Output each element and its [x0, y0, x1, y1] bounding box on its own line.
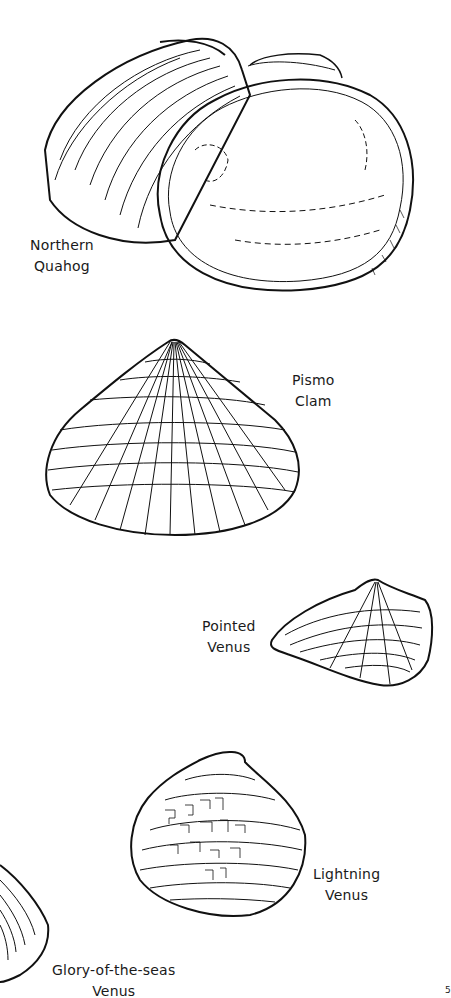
- label-line: Venus: [202, 637, 256, 658]
- glory-of-the-seas-venus-illustration: [0, 865, 48, 982]
- label-pismo-clam: Pismo Clam: [292, 370, 335, 412]
- label-line: Clam: [292, 391, 335, 412]
- label-line: Venus: [52, 981, 175, 998]
- label-line: Northern: [30, 235, 94, 256]
- label-line: Pointed: [202, 616, 256, 637]
- label-line: Venus: [313, 885, 380, 906]
- lightning-venus-illustration: [131, 752, 305, 916]
- northern-quahog-illustration: [45, 39, 413, 291]
- label-line: Quahog: [30, 256, 94, 277]
- page-number-fragment: 5: [445, 985, 451, 995]
- pointed-venus-illustration: [271, 579, 432, 685]
- label-pointed-venus: Pointed Venus: [202, 616, 256, 658]
- label-line: Pismo: [292, 370, 335, 391]
- label-line: Glory-of-the-seas: [52, 960, 175, 981]
- label-lightning-venus: Lightning Venus: [313, 864, 380, 906]
- label-glory-of-the-seas-venus: Glory-of-the-seas Venus: [52, 960, 175, 998]
- label-northern-quahog: Northern Quahog: [30, 235, 94, 277]
- pismo-clam-illustration: [46, 340, 299, 535]
- label-line: Lightning: [313, 864, 380, 885]
